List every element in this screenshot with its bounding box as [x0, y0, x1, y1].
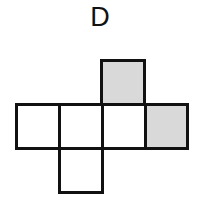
net-square-row-4	[144, 103, 189, 150]
figure-label: D	[0, 2, 200, 32]
net-square-row-3	[101, 103, 147, 150]
net-square-bottom	[58, 147, 104, 194]
net-square-row-1	[15, 103, 61, 150]
net-square-top	[100, 59, 146, 106]
net-square-row-2	[58, 103, 104, 150]
